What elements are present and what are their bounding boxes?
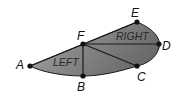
- point-label-b: B: [77, 80, 85, 94]
- point-label-e: E: [131, 6, 140, 20]
- point-label-a: A: [15, 58, 24, 72]
- point-d: [156, 41, 161, 46]
- region-label-right: RIGHT: [116, 30, 150, 42]
- geometry-diagram: LEFT RIGHT A B C D E F: [0, 0, 178, 99]
- point-label-c: C: [137, 70, 146, 84]
- point-label-f: F: [77, 29, 85, 43]
- point-label-d: D: [162, 39, 171, 53]
- region-label-left: LEFT: [53, 56, 80, 68]
- point-a: [27, 63, 32, 68]
- point-e: [134, 19, 139, 24]
- point-c: [134, 63, 139, 68]
- point-b: [80, 73, 85, 78]
